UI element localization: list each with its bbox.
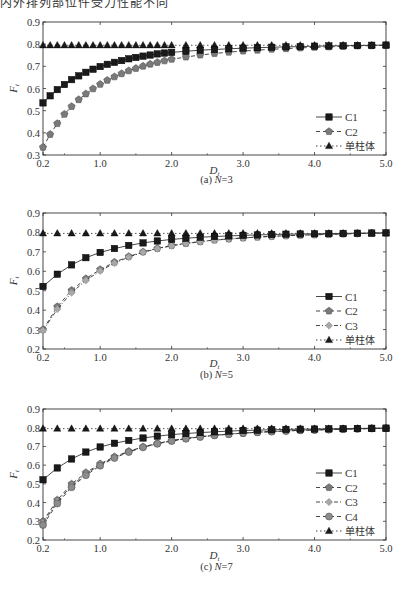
legend-item: C1 [316, 111, 358, 123]
data-point-square [97, 63, 103, 69]
legend-marker-pentagon-icon [325, 307, 332, 314]
data-point-square [68, 456, 74, 462]
legend-marker-diamond-icon [325, 322, 332, 329]
data-point-pentagon [125, 67, 132, 74]
x-tick-label: 3.0 [237, 543, 250, 554]
data-point-triangle [89, 41, 96, 47]
data-point-triangle [97, 425, 104, 431]
y-tick-label: 0.5 [27, 286, 40, 297]
y-axis-label: Ft [7, 83, 21, 94]
data-point-square [61, 81, 67, 87]
data-point-square [383, 230, 389, 236]
data-point-square [118, 57, 124, 63]
data-point-triangle [118, 41, 125, 47]
x-tick-label: 5.0 [379, 158, 392, 169]
legend-item: C2 [316, 305, 358, 317]
data-point-square [183, 235, 189, 241]
data-point-square [354, 42, 360, 48]
data-point-triangle [154, 425, 161, 431]
data-point-triangle [97, 41, 104, 47]
data-point-square [383, 42, 389, 48]
x-tick-label: 5.0 [379, 543, 392, 554]
data-point-square [40, 100, 46, 106]
data-point-square [226, 428, 232, 434]
data-point-square [211, 46, 217, 52]
data-point-pentagon [147, 60, 154, 67]
y-tick-label: 0.6 [27, 84, 40, 95]
series-line [43, 428, 386, 521]
legend-item: C3 [316, 496, 358, 508]
y-tick-label: 0.8 [27, 227, 40, 238]
legend: C1C2C3单柱体 [316, 291, 375, 347]
chart-panel-b: 0.21.02.03.04.05.00.20.30.40.50.60.70.80… [7, 208, 393, 381]
x-tick-label: 4.0 [308, 543, 321, 554]
y-tick-label: 0.7 [27, 61, 40, 72]
data-point-triangle [82, 41, 89, 47]
data-point-square [197, 234, 203, 240]
data-point-square [47, 93, 53, 99]
figure: 0.21.02.03.04.05.00.30.40.50.60.70.80.9D… [0, 0, 407, 592]
data-point-circle [140, 444, 147, 451]
y-tick-label: 0.7 [27, 441, 40, 452]
data-point-square [147, 52, 153, 58]
y-tick-label: 0.5 [27, 106, 40, 117]
y-tick-label: 0.5 [27, 479, 40, 490]
data-point-square [340, 230, 346, 236]
data-point-pentagon [82, 90, 89, 97]
data-point-triangle [68, 41, 75, 47]
x-tick-label: 2.0 [165, 158, 178, 169]
data-point-triangle [139, 230, 146, 236]
data-point-triangle [161, 41, 168, 47]
legend-item: C4 [316, 511, 358, 523]
data-point-square [354, 425, 360, 431]
figure-caption: (a) N=3 [200, 174, 232, 186]
data-point-square [140, 240, 146, 246]
data-point-square [254, 427, 260, 433]
y-tick-label: 0.4 [27, 128, 41, 139]
legend-marker-diamond-icon [325, 498, 332, 505]
data-point-triangle [61, 41, 68, 47]
data-point-square [133, 54, 139, 60]
data-point-circle [168, 438, 175, 445]
chart-panel-a: 0.21.02.03.04.05.00.30.40.50.60.70.80.9D… [7, 17, 393, 186]
data-point-square [383, 425, 389, 431]
y-tick-label: 0.4 [27, 498, 41, 509]
legend-item: 单柱体 [316, 525, 375, 537]
y-axis-label: Ft [7, 276, 21, 287]
data-point-triangle [39, 41, 46, 47]
data-point-square [90, 66, 96, 72]
x-tick-label: 1.0 [94, 158, 107, 169]
data-point-square [140, 435, 146, 441]
data-point-square [311, 426, 317, 432]
data-point-triangle [168, 230, 175, 236]
data-point-triangle [168, 41, 175, 47]
data-point-triangle [54, 425, 61, 431]
y-tick-label: 0.8 [27, 39, 40, 50]
legend-marker-circle-icon [326, 513, 333, 520]
data-point-triangle [182, 41, 189, 47]
x-tick-label: 2.0 [165, 352, 178, 363]
data-point-circle [154, 440, 161, 447]
chart-panel-c: 0.21.02.03.04.05.00.20.30.40.50.60.70.80… [7, 404, 393, 573]
data-point-square [104, 61, 110, 67]
legend-label: C2 [345, 482, 358, 494]
legend-marker-triangle-icon [325, 527, 332, 533]
y-tick-label: 0.9 [27, 208, 40, 219]
legend-marker-square-icon [326, 114, 332, 120]
data-point-square [268, 44, 274, 50]
legend-label: C1 [345, 467, 358, 479]
data-point-pentagon [168, 55, 175, 62]
legend-label: 单柱体 [345, 334, 375, 346]
legend-marker-pentagon-icon [325, 128, 332, 135]
data-point-pentagon [47, 131, 54, 138]
legend-item: 单柱体 [316, 140, 375, 152]
data-point-circle [125, 449, 132, 456]
legend-item: 单柱体 [316, 334, 375, 346]
data-point-pentagon [89, 85, 96, 92]
series-line [43, 233, 386, 331]
data-point-square [240, 45, 246, 51]
data-point-circle [97, 462, 104, 469]
series-line [43, 233, 386, 330]
legend-marker-square-icon [326, 293, 332, 299]
legend-item: C2 [316, 126, 358, 138]
